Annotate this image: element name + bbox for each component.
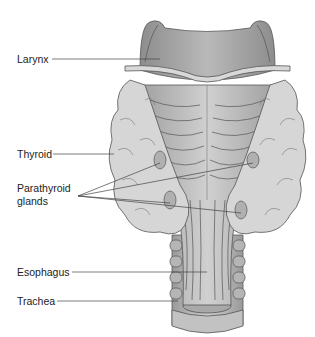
label-larynx: Larynx (17, 53, 49, 65)
label-esophagus: Esophagus (17, 266, 70, 278)
label-parathyroid-line1: Parathyroid (17, 182, 71, 194)
larynx (125, 21, 290, 82)
label-trachea: Trachea (17, 295, 55, 307)
label-thyroid: Thyroid (17, 148, 52, 160)
anatomy-diagram (0, 0, 315, 337)
label-parathyroid-line2: glands (17, 195, 48, 207)
